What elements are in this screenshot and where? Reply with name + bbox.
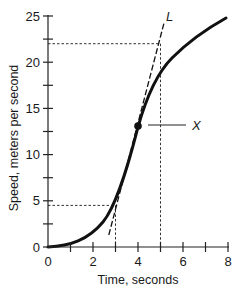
speed-time-chart: 0 5 10 15 20 25 0 2 4 6 8 Time, seconds … <box>0 0 241 293</box>
x-tick-label: 6 <box>179 254 186 269</box>
y-tick-label: 20 <box>26 55 40 70</box>
x-tick-label: 2 <box>89 254 96 269</box>
y-axis-label: Speed, meters per second <box>7 65 21 212</box>
y-tick-labels: 0 5 10 15 20 25 <box>26 9 40 255</box>
x-tick-label: 4 <box>134 254 141 269</box>
x-tick-label: 8 <box>224 254 231 269</box>
x-tick-labels: 0 2 4 6 8 <box>44 254 231 269</box>
y-tick-label: 10 <box>26 147 40 162</box>
x-tick-label: 0 <box>44 254 51 269</box>
point-x-marker <box>134 122 142 130</box>
y-tick-label: 15 <box>26 101 40 116</box>
x-axis-label: Time, seconds <box>98 273 179 287</box>
line-l-label: L <box>166 9 173 24</box>
dashed-guides <box>48 44 161 247</box>
point-x-label: X <box>191 118 202 133</box>
y-tick-label: 5 <box>33 193 40 208</box>
y-tick-label: 0 <box>33 240 40 255</box>
y-tick-label: 25 <box>26 9 40 24</box>
